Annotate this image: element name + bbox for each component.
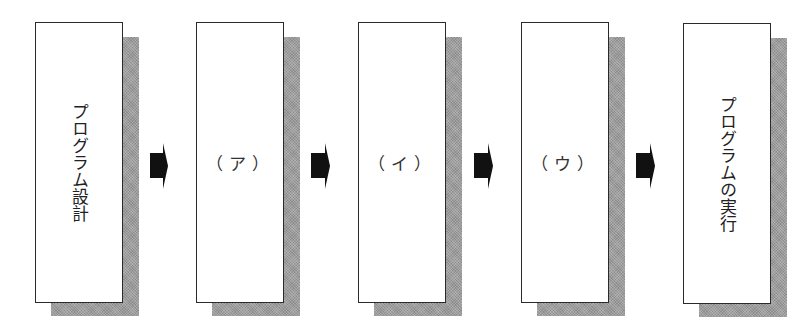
step-u: （ウ） bbox=[521, 22, 609, 303]
step-label: （イ） bbox=[368, 150, 437, 175]
step-a: （ア） bbox=[196, 22, 284, 303]
step-box: （ウ） bbox=[521, 22, 609, 303]
step-box: （ア） bbox=[196, 22, 284, 303]
step-label: （ア） bbox=[206, 150, 275, 175]
block-arrow-right-icon bbox=[311, 143, 331, 189]
step-program-execution: プログラムの実行 bbox=[683, 23, 771, 304]
step-box: プログラム設計 bbox=[35, 22, 123, 303]
step-i: （イ） bbox=[358, 22, 446, 303]
step-label: （ウ） bbox=[531, 150, 600, 175]
step-box: プログラムの実行 bbox=[683, 23, 771, 304]
step-label: プログラム設計 bbox=[71, 103, 88, 222]
step-program-design: プログラム設計 bbox=[35, 22, 123, 303]
step-box: （イ） bbox=[358, 22, 446, 303]
block-arrow-right-icon bbox=[474, 143, 494, 189]
step-label: プログラムの実行 bbox=[719, 96, 736, 232]
block-arrow-right-icon bbox=[636, 143, 656, 189]
block-arrow-right-icon bbox=[150, 143, 170, 189]
